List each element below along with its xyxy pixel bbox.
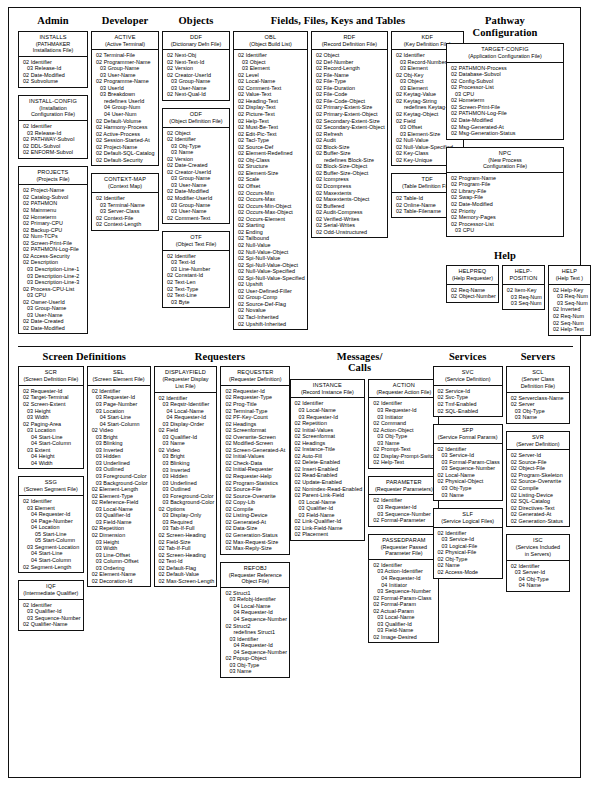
entity-field: 02 Context-Length	[95, 221, 156, 228]
entity-box-header: SEL(Screen Element File)	[88, 367, 150, 386]
entity-name: OTF	[165, 234, 227, 241]
group-messages-calls: Messages/CallsINSTANCE(Record Instance F…	[290, 351, 430, 651]
entity-field: 02 Formal-Parameter	[372, 517, 436, 524]
entity-field: 02 Msg-Generation-Status	[450, 130, 561, 137]
entity-description: (Server Definition)	[509, 441, 567, 448]
entity-box-header: DISPLAYFIELD(Requester DisplayList File)	[155, 367, 217, 392]
entity-box: SLF(Service Logical Files)02 Identifier0…	[433, 508, 503, 578]
entity-box: IQF(Intermediate Qualifier)02 Identifier…	[18, 580, 84, 631]
entity-field: 03 Req-Num	[552, 293, 588, 300]
entity-name: HELP	[551, 268, 588, 275]
entity-box-header: SCR(Screen Definition File)	[19, 367, 83, 386]
entity-field: 03 Name	[224, 668, 287, 675]
entity-description: Configuration File)	[21, 111, 85, 118]
entity-field-list: 02 Identifier03 Service-Id03 Formal-Para…	[434, 444, 502, 500]
entity-box-header: TARGET-CONFIG(Application Configuration …	[447, 44, 563, 63]
entity-field-list: 02 Identifier03 Action-Identifier04 Requ…	[369, 560, 438, 643]
entity-name: SLF	[436, 511, 500, 518]
entity-field: 02 Default-SQL-Catalog	[95, 150, 156, 157]
entity-description: (Requester Passed	[371, 544, 436, 551]
entity-description: (Requester Action File)	[371, 389, 436, 396]
entity-name: PARAMETER	[371, 479, 436, 486]
entity-box: OBL(Object Build List)02 Identifier03 Ob…	[233, 31, 308, 331]
entity-field-list: 02 Identifier03 Terminal-Name03 Server-C…	[92, 193, 158, 230]
entity-field: 02 Image-Desired	[372, 634, 436, 641]
entity-box: SVC(Service Definition)02 Service-Id02 S…	[433, 366, 503, 417]
entity-box: SSG(Screen Segment File)02 Identifier03 …	[18, 476, 84, 573]
entity-field-list: 02 Identifier03 Element04 Requester-Id04…	[19, 496, 83, 572]
entity-box: ACTIVE(Active Terminal)02 Terminal-File0…	[91, 31, 159, 167]
entity-field-list: 02 Project-Name02 Catalog-Subvol02 PATHM…	[19, 185, 87, 333]
entity-box-header: HELP(Help Text )	[549, 266, 590, 285]
entity-box: SVR(Server Definition)02 Server-Id02 Sou…	[506, 431, 570, 528]
entity-field-list: 02 Identifier03 Requester-Id03 Initiator…	[369, 398, 438, 467]
entity-box: HELP-POSITION02 Item-Key03 Req-Num03 Seq…	[502, 265, 545, 310]
entity-field: 02 Programme-Name	[95, 78, 156, 85]
entity-description: (Services Included	[509, 544, 567, 551]
entity-field: 03 Description-Line-3	[22, 279, 85, 286]
entity-name: RDF	[314, 34, 385, 41]
entity-description: (Object Definition File)	[165, 118, 227, 125]
entity-name: HELP-POSITION	[505, 268, 542, 282]
entity-field: 04 Name	[510, 582, 567, 589]
entity-field: 02 Next-Qual-Id	[166, 91, 227, 98]
entity-box-header: INSTANCE(Record Instance File)	[291, 380, 365, 399]
entity-box: PASSEDPARAM(Requester PassedParameter Fi…	[368, 534, 439, 644]
entity-name: PASSEDPARAM	[371, 537, 436, 544]
entity-box: SFP(Service Formal Params)02 Identifier0…	[433, 424, 503, 501]
group-requesters: RequestersDISPLAYFIELD(Requester Display…	[154, 351, 287, 685]
entity-box-header: CONTEXT-MAP(Context Map)	[92, 174, 158, 193]
entity-box: INSTALL-CONFIG(InstallationConfiguration…	[18, 95, 88, 159]
entity-description: (Requester Parameters)	[371, 486, 436, 493]
entity-box: REQUESTER(Requester Definition)02 Reques…	[220, 366, 290, 554]
entity-name: IQF	[21, 583, 81, 590]
entity-box-header: RDF(Record Definition File)	[312, 32, 387, 51]
group-title: Screen Definitions	[18, 351, 151, 363]
entity-field: 03 Name	[437, 492, 500, 499]
entity-field: 02 Segment-Length	[22, 564, 81, 571]
group-objects: ObjectsDDF(Dictionary Defn File)02 Next-…	[162, 15, 230, 315]
entity-box: CONTEXT-MAP(Context Map)02 Identifier03 …	[91, 173, 159, 230]
group-subcolumns: INSTANCE(Record Instance File)02 Identif…	[290, 379, 430, 651]
entity-name: PROJECTS	[21, 169, 85, 176]
group-title: PathwayConfiguration	[446, 15, 564, 39]
entity-field-list: 02 Server-Id02 Source-File02 Object-File…	[507, 450, 569, 526]
entity-description: List File)	[157, 383, 215, 390]
entity-field-list: 02 Identifier03 Object03 Element02 Level…	[234, 50, 307, 329]
entity-box-header: OTF(Object Text File)	[163, 232, 229, 251]
entity-description: (Service Logical Files)	[436, 518, 500, 525]
group-pathway: PathwayConfigurationTARGET-CONFIG(Applic…	[446, 15, 564, 343]
entity-field-list: 02 Next-Obj02 Next-Text-Id02 Version02 C…	[163, 50, 229, 100]
entity-box: PROJECTS(Projects File)02 Project-Name02…	[18, 166, 88, 335]
group-title: Help	[446, 250, 564, 262]
entity-description: (Dictionary Defn File)	[165, 41, 227, 48]
subcolumn: SEL(Screen Element File)02 Identifier03 …	[87, 366, 151, 638]
entity-description: Parameter File)	[371, 550, 436, 557]
entity-description: Object File)	[223, 578, 287, 585]
entity-field-list: 02 Identifier03 Reqstr-Identifier04 Loca…	[155, 393, 217, 587]
entity-box: DDF(Dictionary Defn File)02 Next-Obj02 N…	[162, 31, 230, 101]
subcolumn: HELPREQ(Help Requester)02 Req-Name02 Obj…	[446, 265, 499, 342]
entity-description: (Context Map)	[94, 183, 156, 190]
entity-box-header: INSTALL-CONFIG(InstallationConfiguration…	[19, 96, 87, 121]
entity-box: INSTANCE(Record Instance File)02 Identif…	[290, 379, 366, 541]
group-subcolumns: SVC(Service Definition)02 Service-Id02 S…	[433, 366, 503, 585]
entity-description: (Requester Display	[157, 376, 215, 383]
entity-description: (Help Text )	[551, 275, 588, 282]
entity-box: RDF(Record Definition File)02 Object02 D…	[311, 31, 388, 239]
entity-box-header: SLF(Service Logical Files)	[434, 509, 502, 528]
entity-box-header: IQF(Intermediate Qualifier)	[19, 581, 83, 600]
entity-box: SCL(Server ClassDefinition File)02 Serve…	[506, 366, 570, 423]
entity-field: 02 SQL-Enabled	[437, 408, 500, 415]
entity-box-header: REFOBJ(Requester ReferenceObject File)	[221, 563, 289, 588]
entity-description: Definition File)	[509, 383, 567, 390]
entity-field-list: 02 Identifier03 Server-Id04 Obj-Type04 N…	[507, 561, 569, 591]
entity-field: 04 Sequence-Number	[224, 616, 287, 623]
subcolumn: RDF(Record Definition File)02 Object02 D…	[311, 31, 388, 338]
entity-field: 02 Date-Modified	[22, 325, 85, 332]
entity-box: INSTALLS(PATHMAKERInstallations File)02 …	[18, 31, 88, 88]
entity-box: ISC(Services Includedin Servers)02 Ident…	[506, 534, 570, 591]
entity-description: (Application Configuration File)	[449, 53, 561, 60]
entity-field: 02 Null-Value-Specified	[237, 268, 305, 275]
entity-box-header: INSTALLS(PATHMAKERInstallations File)	[19, 32, 87, 57]
